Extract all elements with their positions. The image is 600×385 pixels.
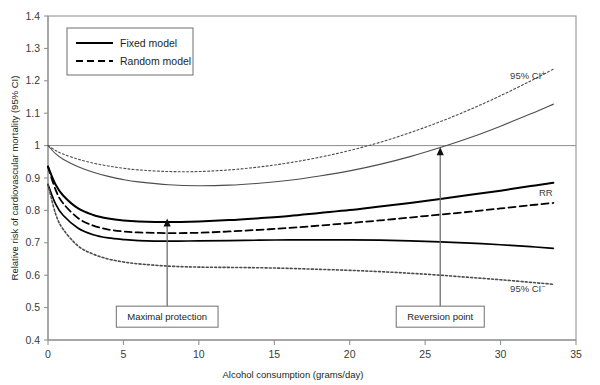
series-line [48,104,553,186]
series-line [48,184,553,284]
chart-legend: Fixed model Random model [67,28,193,75]
data-curves [48,69,553,284]
annotation-reversion-point: Reversion point [396,147,484,327]
legend-box [67,28,193,75]
x-axis-tick-label: 20 [344,348,356,360]
y-axis-tick-label: 0.8 [25,204,40,216]
annotation-maximal-protection: Maximal protection [116,219,218,328]
series-line [48,167,553,233]
rr-label: RR [539,187,553,198]
x-axis-title: Alcohol consumption (grams/day) [223,369,364,380]
x-axis-tick-label: 25 [419,348,431,360]
cardiovascular-mortality-alcohol-chart: 0.40.50.60.70.80.911.11.21.31.4 05101520… [0,0,600,385]
curve-end-labels: 95% CI+RR95% CI− [510,70,553,294]
series-line [48,69,553,172]
legend-label-random-model: Random model [120,55,191,67]
x-axis-tick-label: 15 [268,348,280,360]
y-axis-tick-label: 0.6 [25,269,40,281]
ci-upper-label: 95% CI+ [510,70,545,81]
y-axis-tick-label: 1.2 [25,74,40,86]
x-axis-tick-label: 0 [45,348,51,360]
annotation-label: Maximal protection [127,311,207,322]
chart-figure: 0.40.50.60.70.80.911.11.21.31.4 05101520… [0,0,600,385]
y-axis-tick-label: 0.5 [25,301,40,313]
y-axis-tick-label: 1.4 [25,10,40,22]
y-axis-tick-label: 1.1 [25,107,40,119]
x-axis-tick-label: 30 [495,348,507,360]
ci-lower-label: 95% CI− [510,283,545,294]
x-axis: 05101520253035 [45,340,582,360]
y-axis-tick-label: 1.3 [25,42,40,54]
annotation-label: Reversion point [407,311,473,322]
x-axis-tick-label: 5 [121,348,127,360]
chart-annotations: Maximal protectionReversion point [116,147,484,327]
y-axis-tick-label: 0.7 [25,236,40,248]
y-axis-title: Relative risk of cardiovascular mortalit… [9,76,20,281]
legend-label-fixed-model: Fixed model [120,37,177,49]
x-axis-tick-label: 10 [193,348,205,360]
x-axis-tick-label: 35 [570,348,582,360]
y-axis-tick-label: 0.4 [25,334,40,346]
y-axis-tick-label: 0.9 [25,172,40,184]
y-axis-tick-label: 1 [34,139,40,151]
series-line [48,167,553,222]
y-axis: 0.40.50.60.70.80.911.11.21.31.4 [25,10,48,346]
